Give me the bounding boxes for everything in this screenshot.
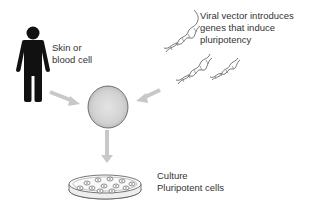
- person-icon: [16, 27, 50, 103]
- cell-sphere-icon: [88, 86, 128, 128]
- petri-dish-icon: [69, 175, 141, 199]
- culture-label: Culture Pluripotent cells: [157, 170, 224, 194]
- person-label: Skin or blood cell: [52, 42, 92, 66]
- arrow-vector-to-cell: [136, 90, 160, 103]
- arrow-cell-to-dish: [101, 130, 113, 163]
- arrow-person-to-cell: [50, 92, 80, 106]
- viral-vector-label: Viral vector introduces genes that induc…: [200, 10, 294, 46]
